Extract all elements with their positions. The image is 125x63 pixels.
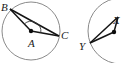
vertex-label-b: B (1, 1, 8, 13)
diagram-left-circle: B A C (1, 1, 69, 60)
vertex-label-x: X (112, 14, 121, 26)
geometry-svg-root: B A C Y X (0, 0, 125, 63)
vertex-label-c: C (61, 29, 69, 41)
radius-segment-y-center (90, 32, 114, 43)
radius-segment-ab (10, 9, 31, 31)
circle-outline-right (88, 0, 125, 63)
vertex-label-a: A (27, 37, 35, 49)
center-point-right (112, 30, 116, 34)
diagram-right-circle: Y X (79, 0, 125, 63)
center-point-a (29, 29, 33, 33)
vertex-label-y: Y (79, 40, 87, 52)
geometry-figure-canvas: B A C Y X (0, 0, 125, 63)
